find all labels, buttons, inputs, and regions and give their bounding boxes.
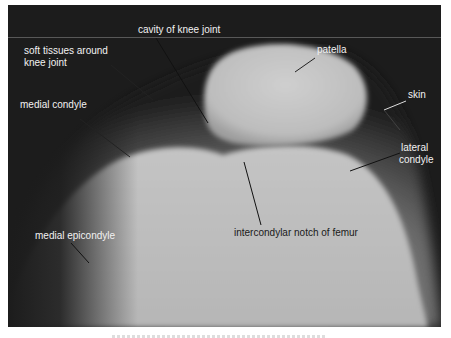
label-cavity-of-knee-joint: cavity of knee joint	[138, 24, 220, 36]
label-lateral-line1: lateral	[401, 142, 428, 154]
label-lateral-line2: condyle	[399, 154, 433, 166]
label-patella: patella	[317, 44, 346, 56]
knee-xray-figure: cavity of knee joint soft tissues around…	[8, 5, 441, 327]
label-soft-tissues-line2: knee joint	[24, 57, 67, 69]
figure-caption-clipped	[0, 327, 451, 338]
label-medial-condyle: medial condyle	[20, 99, 87, 111]
label-intercondylar-notch: intercondylar notch of femur	[234, 227, 358, 239]
scan-line-artifact	[8, 37, 441, 38]
label-medial-epicondyle: medial epicondyle	[35, 230, 115, 242]
label-soft-tissues-line1: soft tissues around	[24, 45, 108, 57]
label-skin: skin	[408, 89, 426, 101]
